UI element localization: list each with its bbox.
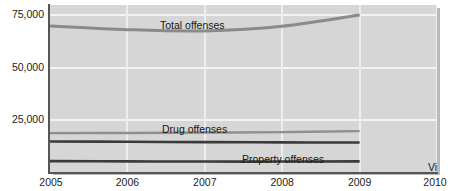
y-axis-tick-labels: 25,00050,00075,000 xyxy=(0,0,44,191)
series-label-violent-offenses: Violent offenses xyxy=(428,161,437,172)
x-tick-label: 2005 xyxy=(39,176,62,188)
y-tick-label: 25,000 xyxy=(12,114,44,125)
series-label-drug-offenses: Drug offenses xyxy=(162,123,227,135)
series-label-total-offenses: Total offenses xyxy=(160,19,225,31)
x-tick-label: 2008 xyxy=(271,176,294,188)
plot-area: Total offenses Drug offenses Property of… xyxy=(50,5,437,172)
x-tick-label: 2010 xyxy=(423,176,446,188)
x-axis-line xyxy=(48,172,438,174)
series-label-property-offenses: Property offenses xyxy=(242,153,324,165)
series-line-property-offenses xyxy=(50,142,360,143)
x-tick-label: 2009 xyxy=(348,176,371,188)
y-axis-line xyxy=(48,4,50,174)
line-chart: Total offenses Drug offenses Property of… xyxy=(0,0,450,191)
x-tick-label: 2006 xyxy=(116,176,139,188)
x-tick-label: 2007 xyxy=(193,176,216,188)
y-tick-label: 50,000 xyxy=(12,62,44,73)
y-tick-label: 75,000 xyxy=(12,9,44,20)
series-lines xyxy=(50,5,437,172)
